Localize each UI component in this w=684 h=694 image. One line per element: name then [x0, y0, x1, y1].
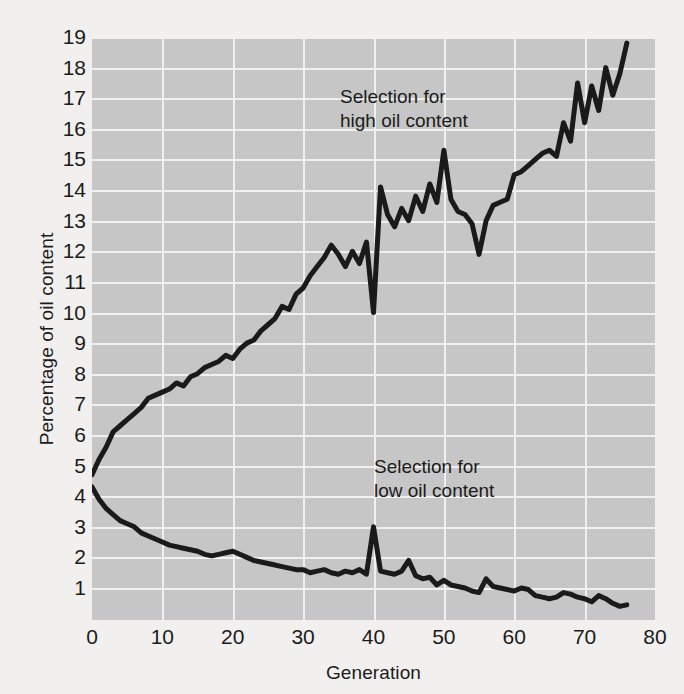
y-tick-label: 17: [40, 87, 86, 108]
y-tick-label: 19: [40, 26, 86, 47]
y-tick-label: 15: [40, 148, 86, 169]
series-line: [92, 487, 627, 606]
y-tick-label: 11: [40, 271, 86, 292]
y-tick-label: 5: [40, 455, 86, 476]
y-tick-label: 1: [40, 577, 86, 598]
y-tick-label: 4: [40, 485, 86, 506]
x-tick-label: 80: [625, 626, 684, 647]
x-tick-label: 10: [132, 626, 192, 647]
y-tick-label: 16: [40, 118, 86, 139]
annotation-high-oil: Selection for high oil content: [340, 85, 468, 134]
x-tick-label: 70: [555, 626, 615, 647]
y-tick-label: 8: [40, 363, 86, 384]
x-tick-label: 30: [273, 626, 333, 647]
y-tick-label: 3: [40, 516, 86, 537]
y-tick-label: 10: [40, 302, 86, 323]
x-tick-label: 0: [62, 626, 122, 647]
y-tick-label: 7: [40, 393, 86, 414]
plot-area: Selection for high oil content Selection…: [92, 37, 655, 620]
x-tick-label: 20: [203, 626, 263, 647]
y-tick-label: 2: [40, 546, 86, 567]
y-tick-label: 12: [40, 240, 86, 261]
y-tick-label: 9: [40, 332, 86, 353]
oil-content-chart: Percentage of oil content 12345678910111…: [0, 0, 684, 694]
x-tick-label: 40: [344, 626, 404, 647]
y-tick-label: 6: [40, 424, 86, 445]
y-axis-tick-labels: 12345678910111213141516171819: [36, 0, 86, 694]
y-tick-label: 18: [40, 57, 86, 78]
x-tick-label: 50: [414, 626, 474, 647]
x-tick-label: 60: [484, 626, 544, 647]
y-tick-label: 13: [40, 210, 86, 231]
annotation-low-oil: Selection for low oil content: [374, 455, 494, 504]
y-tick-label: 14: [40, 179, 86, 200]
x-axis-label: Generation: [92, 662, 655, 684]
